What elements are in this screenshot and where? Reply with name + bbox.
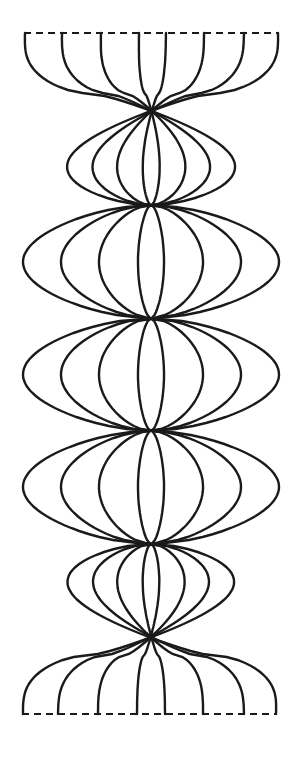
braid-strand-7 <box>61 33 244 714</box>
braid-strands <box>23 33 279 714</box>
braid-strand-2 <box>58 33 241 714</box>
braid-diagram <box>0 0 294 757</box>
braid-strand-5 <box>138 33 166 714</box>
braid-strand-4 <box>137 33 164 714</box>
